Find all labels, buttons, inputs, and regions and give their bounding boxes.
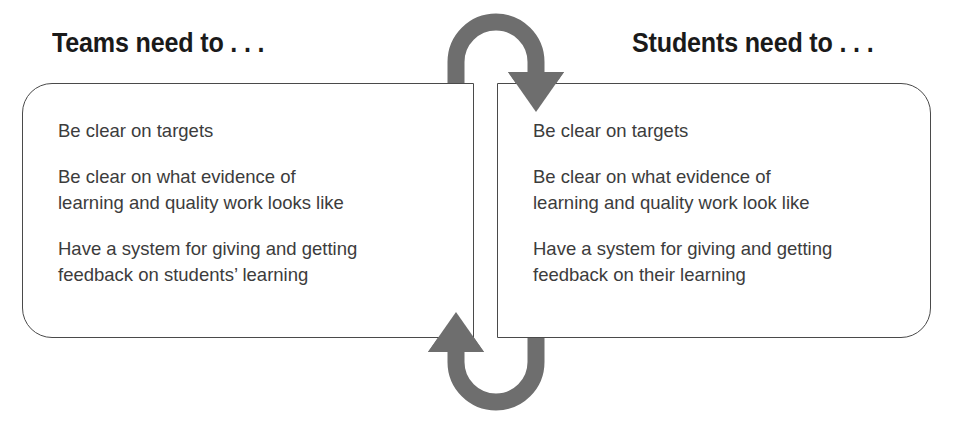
list-item: Be clear on targets	[533, 118, 923, 144]
top-arrowhead-down-icon	[508, 72, 564, 112]
teams-panel-list: Be clear on targets Be clear on what evi…	[58, 118, 458, 288]
teams-panel-heading: Teams need to . . .	[52, 28, 264, 59]
students-panel-list: Be clear on targets Be clear on what evi…	[533, 118, 923, 288]
list-item: Have a system for giving and getting fee…	[58, 236, 458, 288]
cycle-diagram: Teams need to . . . Students need to . .…	[0, 0, 980, 425]
list-item: Have a system for giving and getting fee…	[533, 236, 923, 288]
list-item: Be clear on what evidence of learning an…	[533, 164, 923, 216]
list-item: Be clear on targets	[58, 118, 458, 144]
list-item: Be clear on what evidence of learning an…	[58, 164, 458, 216]
bottom-arrowhead-up-icon	[428, 312, 484, 352]
students-panel-heading: Students need to . . .	[632, 28, 873, 59]
